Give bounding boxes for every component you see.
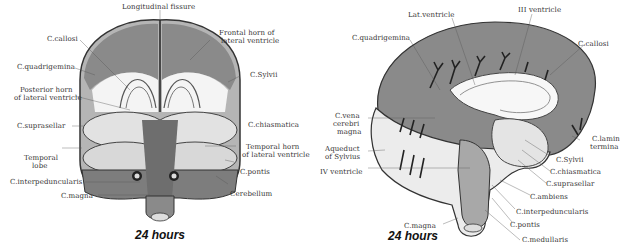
label-frontal-horn-line2: lateral ventricle	[221, 37, 279, 45]
label-c-sylvii: C.Sylvii	[556, 156, 584, 164]
label-c-quadrigemina: C.quadrigemina	[17, 63, 75, 71]
label-c-suprasellar: C.suprasellar	[546, 180, 594, 188]
label-posterior-horn-line2: of lateral ventricle	[14, 94, 82, 102]
label-c-lamina-line1: C.lamin	[592, 135, 620, 143]
label-temporal-lobe-line2: lobe	[32, 162, 47, 170]
label-c-ambiens: C.ambiens	[530, 193, 568, 201]
label-posterior-horn-line1: Posterior horn	[20, 86, 73, 94]
label-iii-ventricle: III ventricle	[518, 6, 561, 14]
label-c-magna: C.magna	[61, 192, 93, 200]
label-c-medullaris: C.medullaris	[522, 236, 568, 244]
label-c-vena-line2: cerebri	[333, 120, 359, 128]
label-c-vena-line1: C.vena	[335, 112, 360, 120]
label-c-suprasellar: C.suprasellar	[17, 122, 65, 130]
label-c-interpeduncularis: C.interpeduncularis	[516, 208, 588, 216]
label-c-callosi: C.callosi	[578, 40, 609, 48]
label-longitudinal-fissure: Longitudinal fissure	[122, 3, 195, 11]
label-aqueduct-line1: Aqueduct	[325, 145, 360, 153]
label-lat-ventricle: Lat.ventricle	[408, 11, 454, 19]
label-temporal-lobe-line1: Temporal	[24, 154, 58, 162]
caption-left: 24 hours	[135, 228, 185, 242]
label-c-chiasmatica: C.chiasmatica	[248, 121, 299, 129]
label-c-sylvii: C.Sylvii	[250, 71, 278, 79]
label-c-pontis: C.pontis	[510, 221, 540, 229]
label-c-interpeduncularis: C.interpeduncularis	[10, 178, 82, 186]
label-c-vena-line3: magna	[337, 128, 361, 136]
label-cerebellum: Cerebellum	[230, 190, 272, 198]
label-frontal-horn-line1: Frontal horn of	[219, 29, 274, 37]
label-c-callosi: C.callosi	[47, 35, 78, 43]
figure-sagittal-view: Lat.ventricle III ventricle C.quadrigemi…	[310, 0, 618, 246]
label-aqueduct-line2: of Sylvius	[325, 153, 360, 161]
label-c-lamina-line2: termina	[590, 143, 619, 151]
caption-right: 24 hours	[388, 229, 438, 243]
label-temporal-horn-line2: of lateral ventricle	[242, 151, 310, 159]
label-c-pontis: C.pontis	[240, 168, 270, 176]
label-c-chiasmatica: C.chiasmatica	[550, 168, 601, 176]
label-iv-ventricle: IV ventricle	[320, 168, 363, 176]
label-c-quadrigemina: C.quadrigemina	[352, 34, 410, 42]
label-temporal-horn-line1: Temporal horn	[246, 143, 299, 151]
figure-coronal-view: Longitudinal fissure Frontal horn of lat…	[0, 0, 310, 246]
